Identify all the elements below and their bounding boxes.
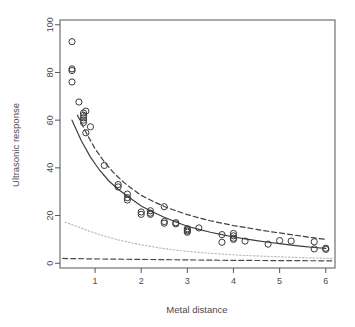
y-tick-label: 100 xyxy=(45,17,55,32)
x-tick-label: 2 xyxy=(139,276,144,286)
y-tick-label: 20 xyxy=(45,211,55,221)
scatter-plot: 020406080100 123456 Metal distance Ultra… xyxy=(0,0,355,327)
x-tick-label: 6 xyxy=(323,276,328,286)
y-tick-label: 80 xyxy=(45,67,55,77)
y-axis-title: Ultrasonic response xyxy=(10,103,21,187)
chart-container: 020406080100 123456 Metal distance Ultra… xyxy=(0,0,355,327)
y-tick-label: 60 xyxy=(45,115,55,125)
x-tick-label: 5 xyxy=(277,276,282,286)
y-tick-label: 0 xyxy=(45,261,55,266)
x-tick-label: 4 xyxy=(231,276,236,286)
x-tick-label: 3 xyxy=(185,276,190,286)
x-tick-label: 1 xyxy=(93,276,98,286)
y-tick-label: 40 xyxy=(45,163,55,173)
x-axis-title: Metal distance xyxy=(166,304,227,315)
